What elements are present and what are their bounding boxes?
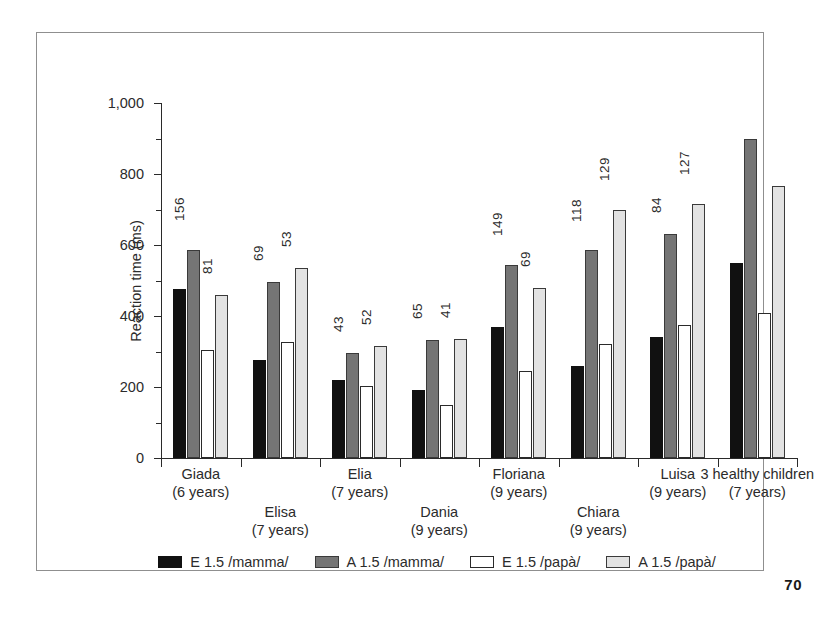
bar[interactable] [215,295,228,458]
x-label-age: (7 years) [700,483,814,501]
bar[interactable] [692,204,705,458]
bar[interactable] [201,350,214,458]
y-tick-major [154,458,161,459]
bar-group: 14969 [479,103,559,458]
bar-group: 15681 [161,103,241,458]
bar-group-bars [241,103,321,458]
legend-item[interactable]: E 1.5 /papà/ [470,554,580,570]
bar[interactable] [187,250,200,458]
legend-swatch-icon [470,556,494,568]
bar-group-bars [718,103,798,458]
bar[interactable] [491,327,504,458]
y-tick-label: 600 [120,237,144,253]
bar-group: 4352 [320,103,400,458]
legend-label: A 1.5 /papà/ [638,554,715,570]
bar[interactable] [454,339,467,458]
legend-item[interactable]: E 1.5 /mamma/ [158,554,288,570]
figure-page: Reaction time (ms) 02004006008001,000 15… [0,0,816,619]
y-tick-major [154,316,161,317]
x-axis-category-label: Chiara(9 years) [570,503,627,539]
bar[interactable] [440,405,453,458]
bar-group: 6953 [241,103,321,458]
bar[interactable] [613,210,626,458]
bar-value-label: 41 [438,302,453,318]
bar-group-bars [400,103,480,458]
legend-swatch-icon [606,556,630,568]
bar[interactable] [253,360,266,458]
x-label-age: (7 years) [252,521,309,539]
bar-value-label: 84 [649,197,664,213]
bar[interactable] [295,268,308,458]
y-tick-label: 400 [120,308,144,324]
bar-value-label: 53 [279,231,294,247]
bar-value-label: 149 [490,211,505,235]
y-tick-label: 200 [120,379,144,395]
bar[interactable] [533,288,546,458]
bar[interactable] [571,366,584,458]
legend-item[interactable]: A 1.5 /mamma/ [315,554,445,570]
bar[interactable] [360,386,373,458]
x-label-name: Dania [420,504,458,520]
legend-label: E 1.5 /mamma/ [190,554,288,570]
legend-swatch-icon [315,556,339,568]
bar[interactable] [412,390,425,459]
bar-group: 118129 [559,103,639,458]
x-axis-category-label: Elisa(7 years) [252,503,309,539]
x-label-name: Floriana [493,466,545,482]
bar[interactable] [744,139,757,458]
bar-value-label: 52 [359,309,374,325]
bar-value-label: 81 [200,258,215,274]
bar[interactable] [664,234,677,458]
figure-frame: Reaction time (ms) 02004006008001,000 15… [36,32,764,571]
x-label-age: (6 years) [172,483,229,501]
legend-swatch-icon [158,556,182,568]
x-label-name: Giada [181,466,220,482]
y-tick-label: 0 [136,450,144,466]
bar[interactable] [374,346,387,458]
bar[interactable] [730,263,743,458]
x-axis-category-label: Dania(9 years) [411,503,468,539]
x-axis-category-label: Floriana(9 years) [490,465,547,501]
bar-value-label: 129 [597,157,612,181]
bar-value-label: 65 [410,303,425,319]
bar-value-label: 156 [172,197,187,221]
bar[interactable] [267,282,280,458]
chart-legend: E 1.5 /mamma/A 1.5 /mamma/E 1.5 /papà/A … [73,554,801,570]
page-number: 70 [784,576,802,593]
x-label-age: (9 years) [411,521,468,539]
bar[interactable] [772,186,785,458]
y-tick-major [154,387,161,388]
x-axis-category-label: 3 healthy children(7 years) [700,465,814,501]
bar[interactable] [346,353,359,458]
bar[interactable] [599,344,612,458]
bar-value-label: 127 [677,151,692,175]
x-label-name: Elia [348,466,372,482]
x-axis-category-label: Elia(7 years) [331,465,388,501]
legend-item[interactable]: A 1.5 /papà/ [606,554,715,570]
bar-group-bars [161,103,241,458]
bar[interactable] [426,340,439,458]
bar[interactable] [281,342,294,458]
y-tick-major [154,103,161,104]
bar[interactable] [678,325,691,458]
bar[interactable] [332,380,345,458]
bar[interactable] [650,337,663,458]
x-label-age: (9 years) [490,483,547,501]
bar-value-label: 118 [569,199,584,222]
y-tick-label: 1,000 [108,95,144,111]
x-label-name: 3 healthy children [700,466,814,482]
bar[interactable] [519,371,532,458]
x-axis-category-label: Giada(6 years) [172,465,229,501]
x-label-name: Chiara [577,504,620,520]
bar[interactable] [505,265,518,458]
bar-group-bars [479,103,559,458]
bar-group: 84127 [638,103,718,458]
bar-value-label: 69 [518,251,533,267]
bar-group [718,103,798,458]
x-label-name: Luisa [660,466,695,482]
bar[interactable] [173,289,186,458]
bar-value-label: 69 [251,245,266,261]
bar[interactable] [585,250,598,458]
y-tick-major [154,174,161,175]
bar[interactable] [758,313,771,458]
